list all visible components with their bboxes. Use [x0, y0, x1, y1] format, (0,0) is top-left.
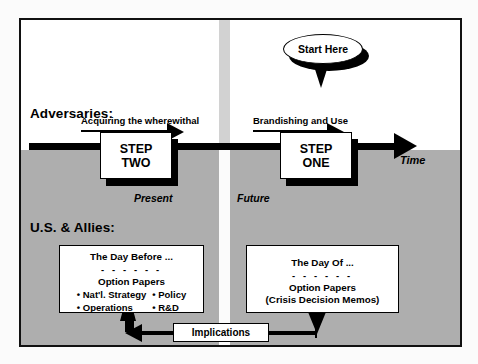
- start-here-callout: Start Here: [283, 34, 375, 92]
- callout-label: Start Here: [283, 34, 363, 64]
- diagram-canvas: Adversaries: Start Here Time Acquiring t…: [0, 0, 478, 364]
- step-two-line2: TWO: [121, 156, 150, 170]
- present-future-divider-lower: [219, 150, 230, 345]
- step-one-box: STEP ONE: [280, 132, 352, 179]
- time-axis-label: Time: [400, 154, 425, 166]
- day-of-title: The Day Of ...: [247, 257, 398, 269]
- day-before-title: The Day Before ...: [60, 251, 203, 263]
- timeline-segment-1: [29, 143, 100, 150]
- day-before-col-right: • Policy • R&D: [152, 289, 186, 314]
- day-of-box: The Day Of ... - - - - - - Option Papers…: [246, 245, 399, 313]
- present-future-divider-upper: [219, 20, 230, 150]
- connector-right-horizontal: [268, 331, 317, 335]
- implications-label: Implications: [192, 327, 250, 338]
- step-one-line1: STEP: [300, 142, 333, 156]
- day-of-note: (Crisis Decision Memos): [247, 294, 398, 306]
- option-item: • Policy: [152, 289, 186, 302]
- future-label: Future: [237, 192, 270, 204]
- day-of-dashes: - - - - - -: [247, 270, 398, 281]
- step-one-line2: ONE: [302, 156, 329, 170]
- day-before-col-left: • Nat'l. Strategy • Operations: [77, 289, 146, 314]
- day-before-option-columns: • Nat'l. Strategy • Operations • Policy …: [60, 289, 203, 314]
- callout-tail: [312, 60, 330, 88]
- connector-left-horizontal: [141, 331, 174, 335]
- option-item: • R&D: [152, 302, 186, 315]
- option-item: • Operations: [77, 302, 146, 315]
- day-of-subtitle: Option Papers: [247, 282, 398, 294]
- timeline-segment-2: [169, 143, 230, 150]
- present-label: Present: [134, 192, 173, 204]
- connector-left-elbow: [125, 316, 134, 332]
- timeline-segment-3: [230, 143, 281, 150]
- day-before-subtitle: Option Papers: [60, 276, 203, 288]
- step-two-box: STEP TWO: [100, 132, 172, 179]
- implications-box: Implications: [173, 323, 269, 342]
- day-before-box: The Day Before ... - - - - - - Option Pa…: [59, 245, 204, 313]
- option-item: • Nat'l. Strategy: [77, 289, 146, 302]
- day-before-dashes: - - - - - -: [60, 264, 203, 275]
- step-two-line1: STEP: [120, 142, 153, 156]
- allies-row-label: U.S. & Allies:: [30, 220, 115, 235]
- diagram-frame: Adversaries: Start Here Time Acquiring t…: [19, 18, 462, 347]
